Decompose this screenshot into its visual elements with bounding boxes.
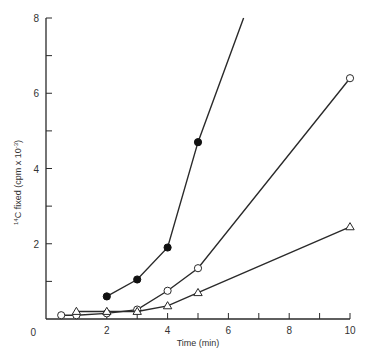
filled-circle-marker — [134, 276, 141, 283]
x-axis-title: Time (min) — [177, 338, 220, 348]
x-tick-label: 10 — [344, 325, 356, 336]
y-tick-label: 4 — [33, 164, 39, 175]
x-tick-label: 4 — [165, 325, 171, 336]
axes — [46, 18, 350, 319]
x-tick-label: 6 — [226, 325, 232, 336]
x-tick-label: 2 — [104, 325, 110, 336]
y-tick-label: 8 — [33, 13, 39, 24]
caption-fragment — [0, 354, 368, 364]
origin-label: 0 — [30, 327, 36, 338]
data-series — [58, 18, 355, 319]
open-circle-marker — [346, 75, 353, 82]
open-circle-marker — [164, 287, 171, 294]
open-circle-marker — [58, 312, 65, 319]
open-triangle-marker — [346, 223, 354, 230]
chart-figure: 24681024680Time (min)14C fixed (cpm x 10… — [0, 0, 368, 364]
series-line — [76, 227, 350, 312]
series-line — [61, 78, 350, 315]
series-line — [107, 18, 244, 296]
filled-circle-marker — [194, 139, 201, 146]
filled-circle-marker — [164, 244, 171, 251]
filled-circle-marker — [103, 293, 110, 300]
y-tick-label: 6 — [33, 88, 39, 99]
x-tick-label: 8 — [286, 325, 292, 336]
y-axis-title: 14C fixed (cpm x 10-3) — [13, 140, 23, 225]
open-circle-marker — [194, 265, 201, 272]
y-tick-label: 2 — [33, 239, 39, 250]
